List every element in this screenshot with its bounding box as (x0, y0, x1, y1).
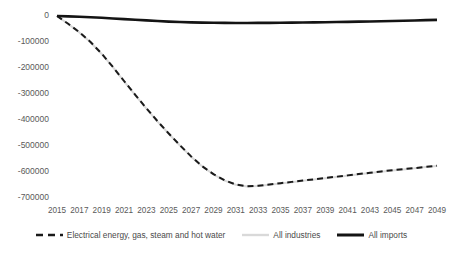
legend-item-label: All industries (273, 230, 320, 240)
y-axis-tick-label: 0 (0, 11, 49, 20)
y-axis-tick-label: -300000 (0, 89, 49, 98)
x-axis-tick-label: 2049 (424, 206, 450, 215)
solid-line-marker (242, 230, 269, 240)
y-axis-tick-label: -700000 (0, 193, 49, 202)
series-line (57, 16, 437, 23)
y-axis-tick-label: -500000 (0, 141, 49, 150)
thick-solid-line-marker (337, 230, 364, 240)
legend-item[interactable]: All imports (337, 230, 407, 240)
legend-item[interactable]: All industries (242, 230, 320, 240)
legend-item-label: All imports (368, 230, 407, 240)
chart-legend: Electrical energy, gas, steam and hot wa… (0, 230, 443, 240)
y-axis-tick-label: -100000 (0, 37, 49, 46)
y-axis-tick-label: -200000 (0, 63, 49, 72)
legend-item[interactable]: Electrical energy, gas, steam and hot wa… (36, 230, 226, 240)
series-line (57, 16, 437, 186)
y-axis-tick-label: -400000 (0, 115, 49, 124)
dashed-line-marker (36, 230, 63, 240)
y-axis-tick-label: -600000 (0, 167, 49, 176)
series-line (57, 16, 437, 187)
legend-item-label: Electrical energy, gas, steam and hot wa… (67, 230, 226, 240)
